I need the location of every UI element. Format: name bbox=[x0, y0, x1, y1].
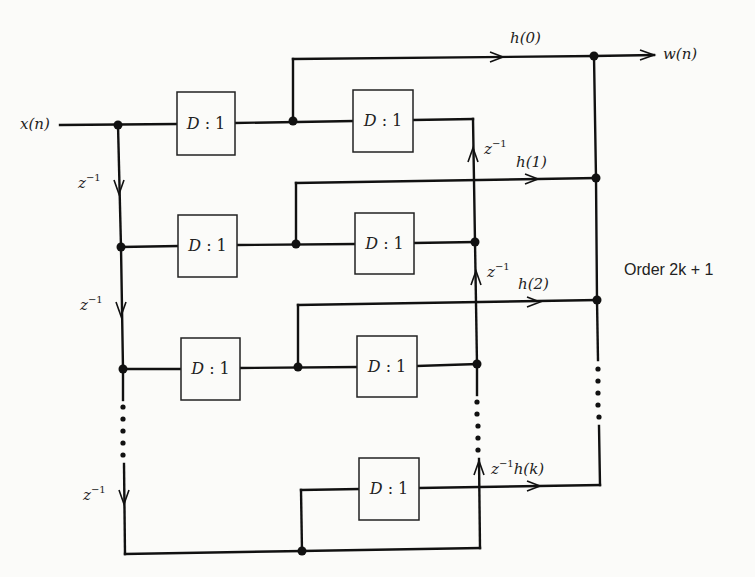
tap-label-h1: h(1) bbox=[516, 155, 547, 170]
output-label: w(n) bbox=[663, 47, 697, 62]
delay-label-left-1: z−1 bbox=[78, 176, 101, 191]
delay-label-left-2: z−1 bbox=[80, 298, 103, 313]
decimator-box-3a: D : 1 bbox=[181, 338, 240, 400]
decimator-box-1b: D : 1 bbox=[353, 90, 413, 152]
input-label: x(n) bbox=[20, 117, 50, 132]
row-k bbox=[301, 458, 600, 551]
decimator-box-3b: D : 1 bbox=[357, 336, 417, 397]
delay-label-mid-1: z−1 bbox=[484, 142, 507, 157]
decimator-box-1a: D : 1 bbox=[177, 92, 235, 155]
tap-label-h2: h(2) bbox=[518, 277, 549, 292]
delay-label-mid-2: z−1 bbox=[487, 265, 510, 280]
decimator-box-k: D : 1 bbox=[359, 458, 419, 520]
delay-label-mid-k: z−1h(k) bbox=[491, 462, 544, 477]
decimator-box-2a: D : 1 bbox=[178, 215, 237, 277]
right-summing-bus bbox=[594, 56, 602, 485]
delay-label-left-3: z−1 bbox=[83, 488, 106, 503]
tap-label-h0: h(0) bbox=[510, 31, 541, 46]
order-label: Order 2k + 1 bbox=[624, 262, 713, 278]
decimator-box-2b: D : 1 bbox=[355, 213, 414, 274]
